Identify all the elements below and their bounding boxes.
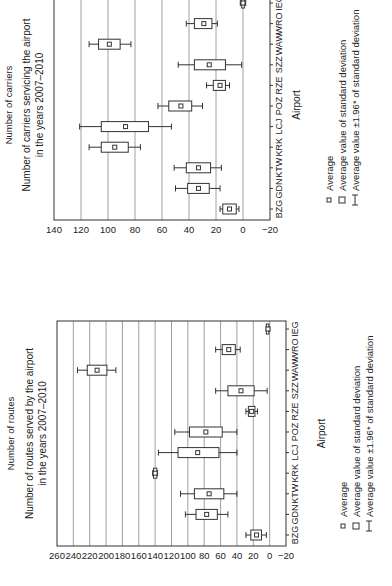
legend-sd-icon [339,197,345,203]
x-tick-label: GDN [274,178,284,198]
x-tick-label: WAW [274,33,284,56]
average-marker [196,166,200,170]
x-tick-label: KTW [274,157,284,178]
y-tick-label: 20 [211,224,222,235]
routes-chart: −20020406080100120140160180200220240260B… [0,293,392,586]
x-axis-label: Airport [316,419,327,449]
average-marker [228,207,232,211]
x-tick-label: SZZ [290,382,300,400]
y-tick-label: 120 [164,550,180,561]
y-tick-label: 60 [215,550,226,561]
carriers-chart-svg: −20020406080100120140BZGGDNKTWKRKLCJPOZR… [0,0,392,293]
average-marker [207,63,211,67]
y-tick-label: 200 [98,550,114,561]
y-tick-label: 40 [184,224,195,235]
y-tick-label: 40 [232,550,243,561]
x-tick-label: WRO [274,13,284,35]
x-tick-label: POZ [290,422,300,441]
y-tick-label: 60 [157,224,168,235]
x-tick-label: LCJ [274,119,284,135]
y-tick-label: 100 [100,224,116,235]
x-tick-label: KTW [290,483,300,504]
y-tick-label: 0 [240,224,245,235]
average-marker [205,512,209,516]
y-tick-label: −20 [278,550,294,561]
y-axis-label: Number of carriers [3,65,14,144]
x-tick-label: BZG [274,200,284,219]
average-marker [107,42,111,46]
chart-subtitle: in the years 2007–2010 [34,52,45,157]
y-tick-label: 0 [267,550,272,561]
legend-average-icon [341,524,345,528]
routes-chart-svg: −20020406080100120140160180200220240260B… [0,293,392,586]
y-tick-label: 100 [180,550,196,561]
y-tick-label: 160 [131,550,147,561]
legend-sd-label: Average value of standard deviation [351,366,362,517]
y-tick-label: −20 [262,224,278,235]
y-tick-label: 20 [248,550,259,561]
average-marker [202,22,206,26]
x-tick-label: BZG [290,526,300,545]
average-marker [196,451,200,455]
average-marker [207,492,211,496]
average-marker [153,471,157,475]
x-tick-label: RZE [290,402,300,420]
x-tick-label: SZZ [274,56,284,74]
average-marker [239,389,243,393]
average-marker [196,186,200,190]
x-tick-label: WRO [290,339,300,361]
carriers-chart: −20020406080100120140BZGGDNKTWKRKLCJPOZR… [0,0,392,293]
x-axis-label: Airport [291,90,302,120]
x-tick-label: POZ [274,96,284,115]
average-marker [241,1,245,5]
x-tick-label: GDN [290,504,300,524]
x-tick-label: WAW [290,359,300,382]
chart-title: Number of carriers servicing the airport [21,18,32,191]
average-marker [95,368,99,372]
legend-average-label: Average [338,482,349,517]
legend-average-icon [327,198,331,202]
y-tick-label: 120 [73,224,89,235]
x-tick-label: IEG [274,0,284,11]
chart-subtitle: in the years 2007–2010 [37,381,48,486]
average-marker [227,348,231,352]
chart-title: Number of routes served by the airport [24,348,35,519]
legend-ci-label: Average value ±1.96* of standard deviati… [364,336,375,517]
average-marker [250,409,254,413]
y-tick-label: 180 [114,550,130,561]
x-tick-label: RZE [274,76,284,94]
x-tick-label: KRK [274,138,284,157]
y-tick-label: 140 [147,550,163,561]
average-marker [255,533,259,537]
y-tick-label: 220 [82,550,98,561]
x-tick-label: LCJ [290,445,300,461]
average-marker [124,125,128,129]
x-tick-label: IEG [290,321,300,337]
legend-ci-label: Average value ±1.96* of standard deviati… [350,10,361,191]
y-tick-label: 240 [65,550,81,561]
average-marker [218,83,222,87]
y-tick-label: 80 [199,550,210,561]
y-tick-label: 140 [46,224,62,235]
average-marker [113,145,117,149]
y-tick-label: 260 [49,550,65,561]
y-tick-label: 80 [130,224,141,235]
legend-sd-icon [353,523,359,529]
average-marker [266,327,270,331]
legend-average-label: Average [324,156,335,191]
x-tick-label: KRK [290,464,300,483]
y-axis-label: Number of routes [5,397,16,471]
average-marker [179,104,183,108]
average-marker [204,430,208,434]
legend-sd-label: Average value of standard deviation [337,40,348,191]
